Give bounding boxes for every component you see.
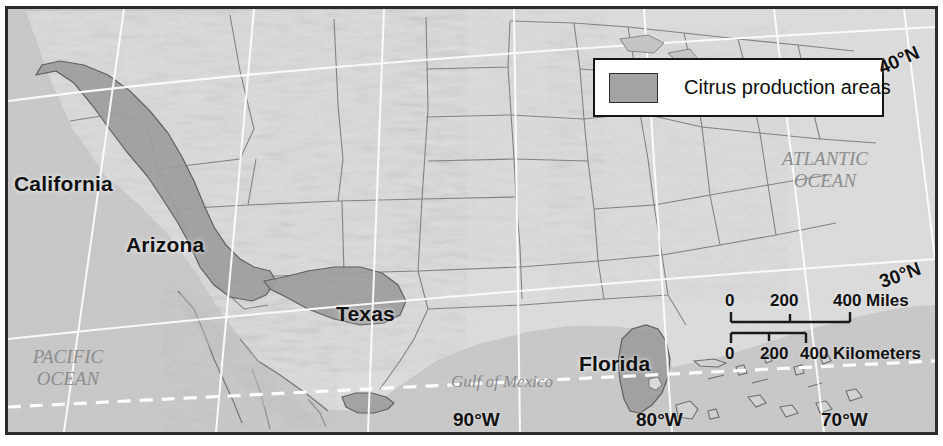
state-label-california: California <box>14 172 113 196</box>
citrus-production-map-figure: Citrus production areas California Arizo… <box>0 0 943 446</box>
state-label-texas: Texas <box>336 302 395 326</box>
scale-bracket-kilometers <box>731 333 806 343</box>
longitude-label-70w: 70°W <box>821 409 868 431</box>
longitude-label-80w: 80°W <box>636 409 683 431</box>
scale-bracket-miles <box>731 312 850 322</box>
scale-km-tick-400-unit: 400 Kilometers <box>800 344 921 364</box>
map-scale-bar: 0 200 400 Miles 0 200 400 Kilometers <box>708 291 908 363</box>
legend-label: Citrus production areas <box>684 76 891 99</box>
scale-km-tick-200: 200 <box>760 344 788 364</box>
water-label-pacific-ocean: PACIFIC OCEAN <box>20 346 116 390</box>
longitude-label-90w: 90°W <box>453 409 500 431</box>
state-label-florida: Florida <box>579 352 650 376</box>
atlantic-line-1: ATLANTIC <box>765 148 885 170</box>
scale-km-tick-0: 0 <box>725 344 734 364</box>
pacific-line-1: PACIFIC <box>20 346 116 368</box>
state-label-arizona: Arizona <box>126 233 204 257</box>
water-label-gulf-of-mexico: Gulf of Mexico <box>451 372 553 392</box>
map-legend: Citrus production areas <box>593 58 884 117</box>
atlantic-line-2: OCEAN <box>765 170 885 192</box>
map-frame: Citrus production areas California Arizo… <box>5 6 938 435</box>
citrus-swatch-icon <box>609 73 658 103</box>
water-label-atlantic-ocean: ATLANTIC OCEAN <box>765 148 885 192</box>
pacific-line-2: OCEAN <box>20 368 116 390</box>
